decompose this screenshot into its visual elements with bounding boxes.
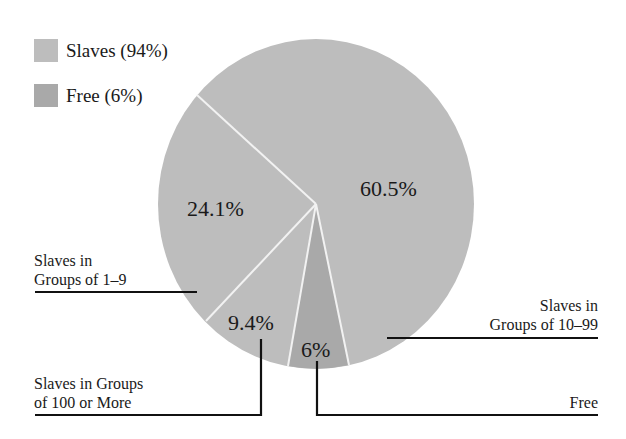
callout-text: Groups of 10–99 — [490, 315, 598, 334]
slice-label-9-4: 9.4% — [228, 310, 274, 335]
legend-label-free: Free (6%) — [66, 85, 143, 107]
legend-item-slaves: Slaves (94%) — [34, 39, 168, 62]
legend-swatch-free — [34, 84, 58, 107]
callout-text: of 100 or More — [34, 393, 143, 412]
callout-free: Free — [570, 393, 598, 412]
callout-text: Slaves in — [490, 296, 598, 315]
callout-groups-10-99: Slaves in Groups of 10–99 — [490, 296, 598, 334]
callout-groups-1-9: Slaves in Groups of 1–9 — [34, 251, 126, 289]
callout-groups-100-plus: Slaves in Groups of 100 or More — [34, 374, 143, 412]
legend-item-free: Free (6%) — [34, 84, 143, 107]
callout-text: Slaves in — [34, 251, 126, 270]
callout-text: Free — [570, 393, 598, 412]
legend-label-slaves: Slaves (94%) — [66, 40, 168, 62]
slice-label-60-5: 60.5% — [360, 176, 417, 201]
callout-text: Slaves in Groups — [34, 374, 143, 393]
callout-text: Groups of 1–9 — [34, 270, 126, 289]
slice-label-6: 6% — [301, 337, 330, 362]
legend-swatch-slaves — [34, 39, 58, 62]
slice-label-24-1: 24.1% — [187, 196, 244, 221]
